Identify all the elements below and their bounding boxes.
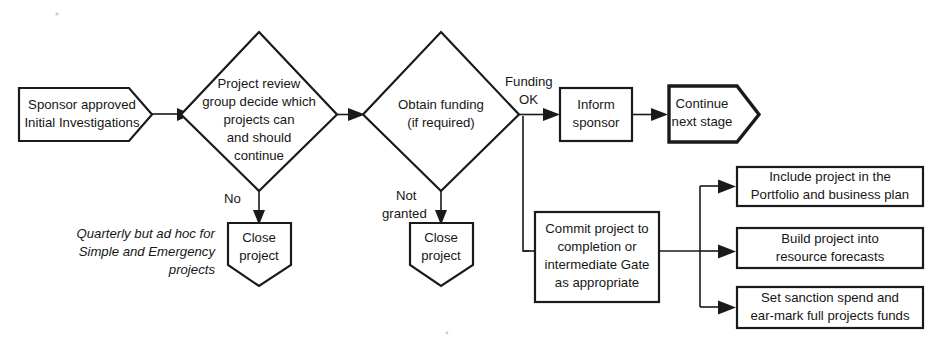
edge-label-no: No	[224, 191, 241, 206]
node-commit-line2: completion or	[557, 239, 637, 254]
node-close-project-2-line1: Close	[424, 230, 458, 245]
node-start-line2: Initial Investigations	[24, 115, 139, 130]
node-decision-review-line4: and should	[227, 130, 292, 145]
edge-label-not-granted-line2: granted	[382, 206, 427, 221]
node-inform-sponsor-line1: Inform	[577, 97, 614, 112]
node-commit-line1: Commit project to	[545, 221, 648, 236]
edge-label-not-granted-line1: Not	[396, 188, 417, 203]
node-continue-line2: next stage	[672, 114, 733, 129]
node-build-line1: Build project into	[781, 231, 879, 246]
node-continue-line1: Continue	[676, 96, 729, 111]
node-decision-review-line1: Project review	[218, 76, 301, 91]
arrowhead-bus-to-sanction	[718, 301, 736, 315]
node-include-line1: Include project in the	[769, 169, 891, 184]
node-close-project-2-line2: project	[421, 248, 461, 263]
node-include-line2: Portfolio and business plan	[751, 187, 909, 202]
flowchart-svg: Sponsor approved Initial Investigations …	[0, 0, 928, 346]
annotation-quarterly-line3: projects	[168, 262, 216, 277]
node-build-line2: resource forecasts	[776, 249, 885, 264]
scan-speck	[446, 332, 449, 335]
node-close-project-1-line1: Close	[242, 230, 276, 245]
edge-label-funding-ok-line1: Funding	[505, 74, 553, 89]
annotation-quarterly-line1: Quarterly but ad hoc for	[76, 226, 215, 241]
node-decision-review-line3: projects can	[223, 112, 294, 127]
scan-speck	[55, 12, 58, 15]
node-inform-sponsor-line2: sponsor	[573, 115, 621, 130]
arrowhead-inform-to-continue	[651, 108, 668, 121]
node-commit-line3: intermediate Gate	[545, 257, 650, 272]
annotation-quarterly-line2: Simple and Emergency	[79, 244, 217, 259]
edge-label-funding-ok-line2: OK	[519, 92, 538, 107]
arrowhead-funding-to-inform	[543, 108, 560, 121]
node-commit-line4: as appropriate	[555, 275, 639, 290]
arrowhead-bus-to-build	[718, 245, 736, 259]
node-sanction-line1: Set sanction spend and	[761, 290, 899, 305]
node-decision-review-line2: group decide which	[202, 94, 316, 109]
flowchart-canvas: Sponsor approved Initial Investigations …	[0, 0, 928, 346]
node-decision-review-line5: continue	[234, 148, 284, 163]
arrowhead-bus-to-include	[718, 180, 736, 194]
node-close-project-1-line2: project	[239, 248, 279, 263]
node-sanction-line2: ear-mark full projects funds	[750, 308, 909, 323]
node-start-line1: Sponsor approved	[28, 97, 136, 112]
node-decision-funding-line1: Obtain funding	[398, 97, 484, 112]
connector-funding-to-commit	[523, 116, 529, 251]
node-decision-funding-line2: (if required)	[407, 115, 474, 130]
